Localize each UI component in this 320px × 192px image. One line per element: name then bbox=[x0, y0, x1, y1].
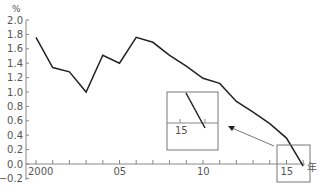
line-chart: 2.01.81.61.41.21.00.80.60.40.20.0−0.2 % … bbox=[0, 0, 320, 192]
x-tick-label: 10 bbox=[197, 166, 210, 177]
y-tick-label: 0.6 bbox=[7, 115, 23, 126]
y-tick-label: −0.2 bbox=[0, 173, 23, 184]
y-tick-label: 1.2 bbox=[7, 72, 23, 83]
inset-tick-label: 15 bbox=[175, 125, 188, 136]
y-tick-label: 1.4 bbox=[7, 58, 23, 69]
x-ticks: 2000051015 bbox=[28, 160, 303, 177]
y-tick-label: 0.8 bbox=[7, 101, 23, 112]
y-tick-label: 1.8 bbox=[7, 29, 23, 40]
inset-frame bbox=[167, 92, 218, 150]
x-tick-label: 05 bbox=[114, 166, 127, 177]
y-tick-label: 0.4 bbox=[7, 130, 23, 141]
inset: 15 bbox=[167, 92, 218, 150]
y-ticks: 2.01.81.61.41.21.00.80.60.40.20.0−0.2 bbox=[0, 15, 29, 184]
arrow-line bbox=[232, 128, 274, 146]
y-tick-label: 0.0 bbox=[7, 159, 23, 170]
x-tick-label: 15 bbox=[281, 166, 294, 177]
x-tick-label: 2000 bbox=[28, 166, 53, 177]
x-unit-label: 年 bbox=[307, 161, 317, 173]
y-tick-label: 1.0 bbox=[7, 87, 23, 98]
y-unit-label: % bbox=[12, 4, 21, 14]
y-tick-label: 1.6 bbox=[7, 43, 23, 54]
y-tick-label: 2.0 bbox=[7, 15, 23, 26]
y-tick-label: 0.2 bbox=[7, 144, 23, 155]
